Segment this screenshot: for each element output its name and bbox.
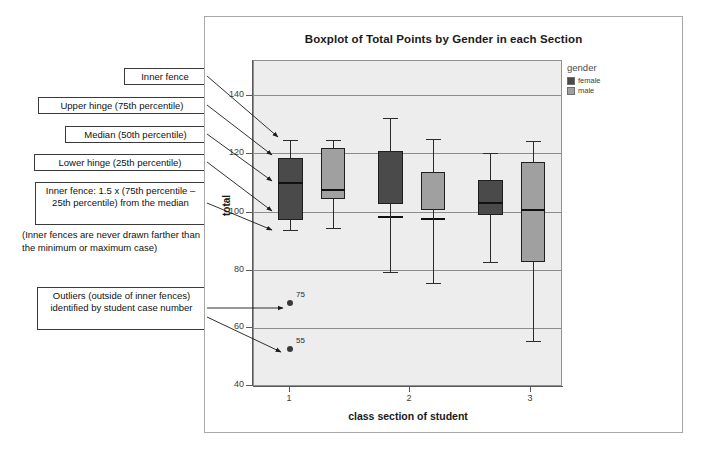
box-s2-female bbox=[378, 151, 403, 204]
outlier-point-case-55 bbox=[287, 346, 293, 352]
whisker-cap-lower-s1-female bbox=[283, 230, 298, 231]
y-axis-line bbox=[252, 60, 253, 386]
median-s1-female bbox=[278, 182, 303, 184]
box-s2-male bbox=[421, 172, 445, 210]
whisker-stem-upper-s1-female bbox=[290, 140, 291, 158]
x-axis-line bbox=[253, 386, 563, 387]
x-tick-2 bbox=[409, 386, 410, 392]
y-tick-60 bbox=[246, 327, 252, 328]
median-s1-male bbox=[321, 189, 345, 191]
x-axis-title: class section of student bbox=[253, 410, 563, 422]
whisker-cap-lower-s2-male bbox=[426, 283, 441, 284]
chart-title: Boxplot of Total Points by Gender in eac… bbox=[204, 33, 683, 45]
whisker-cap-upper-s1-female bbox=[283, 140, 298, 141]
box-s1-male bbox=[321, 148, 345, 199]
inner-fence-note: (Inner fences are never drawn farther th… bbox=[22, 229, 212, 254]
legend-swatch-male bbox=[567, 87, 575, 95]
screenshot-root: Inner fence Upper hinge (75th percentile… bbox=[0, 0, 710, 450]
outlier-label-case-55: 55 bbox=[296, 336, 305, 345]
callout-lower-hinge: Lower hinge (25th percentile) bbox=[34, 154, 206, 171]
whisker-stem-lower-s2-male bbox=[433, 210, 434, 284]
whisker-stem-lower-s2-female bbox=[390, 204, 391, 273]
x-tick-label-3: 3 bbox=[515, 393, 545, 403]
median-s3-male bbox=[521, 209, 545, 211]
whisker-cap-upper-s1-male bbox=[326, 140, 341, 141]
outlier-label-case-75: 75 bbox=[296, 290, 305, 299]
callout-inner-fence-top: Inner fence bbox=[124, 68, 206, 85]
x-tick-3 bbox=[530, 386, 531, 392]
legend-item-female: female bbox=[567, 76, 637, 85]
x-tick-label-1: 1 bbox=[274, 393, 304, 403]
whisker-cap-lower-s3-male bbox=[526, 341, 541, 342]
whisker-stem-lower-s3-female bbox=[490, 215, 491, 263]
whisker-cap-upper-s3-male bbox=[526, 141, 541, 142]
y-tick-140 bbox=[246, 95, 252, 96]
box-s1-female bbox=[278, 158, 303, 220]
whisker-stem-upper-s1-male bbox=[333, 140, 334, 148]
legend-item-male: male bbox=[567, 86, 637, 95]
box-s3-female bbox=[478, 180, 503, 215]
outlier-point-case-75 bbox=[287, 300, 293, 306]
gridline-80 bbox=[254, 270, 561, 271]
legend-swatch-female bbox=[567, 77, 575, 85]
callout-inner-fence-formula: Inner fence: 1.5 x (75th percentile – 25… bbox=[35, 182, 206, 225]
y-tick-100 bbox=[246, 212, 252, 213]
callout-upper-hinge: Upper hinge (75th percentile) bbox=[38, 97, 206, 114]
y-axis-title: total bbox=[221, 195, 232, 216]
whisker-cap-upper-s2-female bbox=[383, 118, 398, 119]
y-tick-80 bbox=[246, 270, 252, 271]
whisker-stem-lower-s3-male bbox=[533, 262, 534, 342]
plot-area: 75 55 bbox=[253, 60, 562, 386]
y-tick-label-60: 60 bbox=[210, 321, 244, 331]
whisker-stem-lower-s1-male bbox=[333, 199, 334, 229]
gridline-120 bbox=[254, 153, 561, 154]
callout-outliers: Outliers (outside of inner fences) ident… bbox=[37, 287, 206, 330]
gridline-60 bbox=[254, 328, 561, 329]
legend: gender female male bbox=[567, 62, 637, 96]
whisker-cap-upper-s3-female bbox=[483, 153, 498, 154]
legend-label-female: female bbox=[578, 76, 601, 85]
legend-title: gender bbox=[567, 62, 637, 73]
whisker-cap-lower-s1-male bbox=[326, 228, 341, 229]
callout-median: Median (50th percentile) bbox=[65, 126, 206, 143]
box-s3-male bbox=[521, 162, 545, 262]
whisker-stem-upper-s2-male bbox=[433, 139, 434, 172]
legend-label-male: male bbox=[578, 86, 594, 95]
whisker-stem-upper-s3-female bbox=[490, 153, 491, 180]
whisker-cap-lower-s2-female bbox=[383, 272, 398, 273]
y-tick-label-80: 80 bbox=[210, 264, 244, 274]
x-tick-label-2: 2 bbox=[394, 393, 424, 403]
median-s3-female bbox=[478, 202, 503, 204]
whisker-stem-upper-s2-female bbox=[390, 118, 391, 151]
whisker-cap-lower-s3-female bbox=[483, 262, 498, 263]
y-tick-40 bbox=[246, 385, 252, 386]
y-tick-120 bbox=[246, 153, 252, 154]
whisker-stem-upper-s3-male bbox=[533, 141, 534, 162]
y-tick-label-120: 120 bbox=[210, 147, 244, 157]
x-tick-1 bbox=[289, 386, 290, 392]
y-tick-label-40: 40 bbox=[210, 379, 244, 389]
gridline-140 bbox=[254, 95, 561, 96]
whisker-cap-upper-s2-male bbox=[426, 139, 441, 140]
y-tick-label-140: 140 bbox=[210, 89, 244, 99]
